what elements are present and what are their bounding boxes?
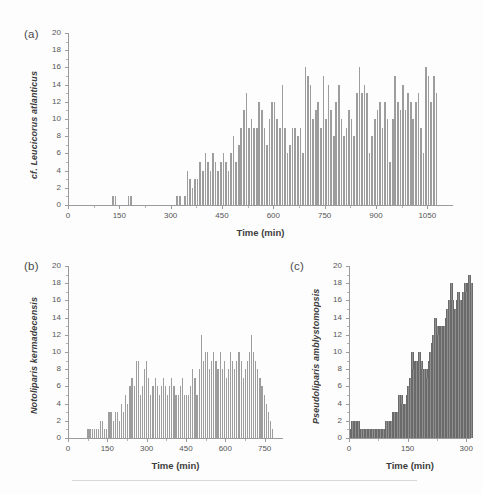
- bar: [369, 153, 371, 205]
- bar: [138, 361, 139, 438]
- bar: [397, 102, 399, 205]
- bar: [410, 102, 412, 205]
- bar: [104, 429, 105, 438]
- plot-b-y-tick-label: 12: [41, 331, 61, 339]
- bar: [155, 378, 156, 438]
- plot-c-x-tick: [466, 439, 467, 442]
- bar: [264, 128, 266, 205]
- panel-c-y-axis-label: Pseudoliparis amblystomopsis: [311, 270, 321, 442]
- bar: [379, 102, 381, 205]
- plot-a-x-minor-tick: [248, 206, 249, 208]
- bar: [201, 335, 202, 438]
- plot-c-y-tick-label: 20: [322, 262, 342, 270]
- bar: [194, 179, 196, 205]
- plot-c-y-tick-label: 0: [322, 434, 342, 442]
- plot-b-x-tick: [107, 439, 108, 442]
- bar: [142, 386, 143, 438]
- bar: [230, 153, 232, 205]
- bar: [100, 421, 101, 438]
- plot-b-x-tick-label: 450: [166, 445, 206, 453]
- bar: [192, 369, 193, 438]
- bar: [248, 128, 250, 205]
- plot-c-x-minor-tick: [378, 439, 379, 441]
- bar: [144, 369, 145, 438]
- bar: [220, 352, 221, 438]
- plot-a-y-tick-label: 2: [41, 184, 61, 192]
- figure-panel-group: (a) cf. Leucicorus atlanticus 0246810121…: [0, 0, 483, 495]
- plot-b-x-tick: [147, 439, 148, 442]
- plot-a-x-tick-label: 150: [99, 212, 139, 220]
- bar: [161, 386, 162, 438]
- plot-b-y-tick-label: 4: [41, 400, 61, 408]
- plot-b-x-minor-tick: [206, 439, 207, 441]
- bar: [215, 361, 216, 438]
- bar: [123, 412, 124, 438]
- bar: [328, 85, 330, 205]
- bar: [420, 128, 422, 205]
- plot-c-x-tick-label: 0: [329, 445, 369, 453]
- bar: [98, 429, 99, 438]
- plot-b-y-tick-label: 14: [41, 314, 61, 322]
- bar: [113, 421, 114, 438]
- bar: [199, 162, 201, 205]
- bar: [232, 361, 233, 438]
- bar: [251, 335, 252, 438]
- plot-a-x-tick-label: 900: [356, 212, 396, 220]
- bar: [356, 93, 358, 205]
- plot-c-y-tick-label: 8: [322, 365, 342, 373]
- bar: [228, 171, 230, 205]
- plot-a-x-minor-tick: [402, 206, 403, 208]
- bar: [171, 378, 172, 438]
- bar: [269, 119, 271, 205]
- bar: [179, 196, 181, 205]
- bar: [276, 119, 278, 205]
- bar: [274, 102, 276, 205]
- bar: [106, 429, 107, 438]
- bar: [169, 386, 170, 438]
- plot-c-y-tick-label: 10: [322, 348, 342, 356]
- bar: [258, 102, 260, 205]
- bar: [384, 102, 386, 205]
- panel-b-plot-area: 024681012141618200150300450600750: [68, 266, 283, 438]
- plot-a-bar-series: [68, 33, 453, 205]
- bar: [402, 85, 404, 205]
- bar: [167, 395, 168, 438]
- bar: [245, 369, 246, 438]
- panel-a-y-axis-label: cf. Leucicorus atlanticus: [29, 50, 39, 200]
- bar: [297, 136, 299, 205]
- bar: [325, 119, 327, 205]
- bar: [125, 395, 126, 438]
- bar: [187, 171, 189, 205]
- plot-c-x-axis: [349, 438, 471, 439]
- bar: [382, 128, 384, 205]
- bar: [323, 76, 325, 205]
- bar: [180, 386, 181, 438]
- plot-a-x-tick: [325, 206, 326, 209]
- bar: [433, 76, 435, 205]
- panel-c-label: (c): [290, 260, 304, 272]
- bar: [405, 110, 407, 205]
- plot-a-x-tick-label: 300: [151, 212, 191, 220]
- bar: [175, 395, 176, 438]
- bar: [131, 378, 132, 438]
- bar: [394, 76, 396, 205]
- plot-a-x-tick: [273, 206, 274, 209]
- bar: [94, 429, 95, 438]
- plot-a-x-tick: [119, 206, 120, 209]
- bar: [110, 412, 111, 438]
- bar: [213, 352, 214, 438]
- plot-b-bar-series: [68, 266, 283, 438]
- bar: [272, 429, 273, 438]
- plot-a-y-tick-label: 16: [41, 63, 61, 71]
- bar: [364, 85, 366, 205]
- plot-a-x-tick: [68, 206, 69, 209]
- plot-a-y-tick-label: 8: [41, 132, 61, 140]
- bar: [256, 128, 258, 205]
- plot-b-y-tick-label: 16: [41, 296, 61, 304]
- bar: [412, 119, 414, 205]
- plot-a-x-tick-label: 750: [305, 212, 345, 220]
- plot-a-y-tick-label: 12: [41, 98, 61, 106]
- bar: [210, 171, 212, 205]
- panel-b: (b) Notoliparis kermadecensis 0246810121…: [0, 248, 290, 495]
- plot-b-x-tick-label: 300: [127, 445, 167, 453]
